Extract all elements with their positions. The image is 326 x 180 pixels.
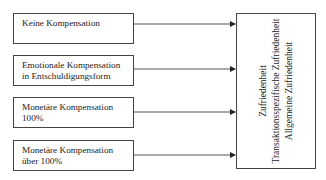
target-label: Allgemeine Zufriedenheit xyxy=(283,18,296,163)
satisfaction-box: Zufriedenheit Transaktionsspezifische Zu… xyxy=(236,13,316,169)
satisfaction-labels: Zufriedenheit Transaktionsspezifische Zu… xyxy=(257,18,296,163)
target-label: Transaktionsspezifische Zufriedenheit xyxy=(270,18,283,163)
target-label: Zufriedenheit xyxy=(257,18,270,163)
